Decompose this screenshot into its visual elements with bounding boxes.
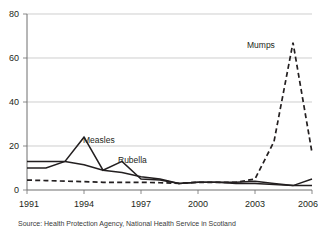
gridlines — [27, 14, 312, 146]
y-axis-label-80: 80 — [9, 9, 19, 19]
y-axis-labels: 80 60 40 20 0 — [9, 9, 19, 195]
series-label-mumps: Mumps — [247, 40, 275, 50]
chart-figure: 80 60 40 20 0 1991 1994 1997 2000 2003 2… — [0, 0, 318, 230]
y-axis-label-60: 60 — [9, 53, 19, 63]
x-axis-label-1994: 1994 — [74, 199, 94, 209]
y-axis-label-20: 20 — [9, 141, 19, 151]
y-tick-marks — [23, 14, 27, 190]
series-label-rubella: Rubella — [118, 155, 147, 165]
x-axis-label-2006: 2006 — [298, 199, 318, 209]
x-axis-labels: 1991 1994 1997 2000 2003 2006 — [19, 199, 318, 209]
x-tick-marks — [27, 190, 312, 194]
x-axis-label-1997: 1997 — [131, 199, 151, 209]
y-axis-label-40: 40 — [9, 97, 19, 107]
x-axis-label-2003: 2003 — [245, 199, 265, 209]
series-label-measles: Measles — [83, 135, 115, 145]
y-axis-label-0: 0 — [14, 185, 19, 195]
line-chart: 80 60 40 20 0 1991 1994 1997 2000 2003 2… — [0, 0, 318, 230]
x-axis-label-2000: 2000 — [188, 199, 208, 209]
source-caption: Source: Health Protection Agency, Nation… — [18, 219, 314, 228]
x-axis-label-1991: 1991 — [19, 199, 39, 209]
series-line-measles — [27, 137, 312, 185]
data-series-group — [27, 43, 312, 186]
